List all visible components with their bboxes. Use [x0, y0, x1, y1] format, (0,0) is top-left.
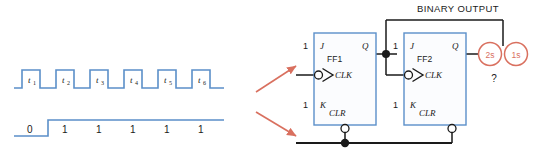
data-waveform-group: 0 1 1 1 1 1 [14, 120, 224, 136]
clock-label-sub-3: 3 [101, 80, 104, 86]
ff1-k-value: 1 [303, 100, 308, 110]
clock-pulse-label-2: t 2 [62, 75, 70, 86]
data-bit-0: 0 [27, 124, 33, 135]
data-bit-1: 1 [62, 124, 68, 135]
clock-pulse-label-4: t 4 [130, 75, 138, 86]
data-bit-3: 1 [130, 124, 136, 135]
ff1-clk-label: CLK [335, 70, 353, 80]
clock-pulse-label-1: t 1 [28, 75, 36, 86]
binary-output-heading: BINARY OUTPUT [417, 3, 499, 14]
ff2-clk-label: CLK [425, 70, 443, 80]
ff1-q-label: Q [362, 41, 369, 51]
clock-label-text-6: t [198, 75, 201, 85]
annotation-arrows [256, 66, 296, 136]
flipflop-ff1[interactable]: 1 J Q FF1 CLK 1 K CLR [303, 33, 376, 133]
clock-label-text-2: t [62, 75, 65, 85]
data-bit-4: 1 [164, 124, 170, 135]
clock-label-sub-4: 4 [135, 80, 138, 86]
clock-waveform-group: t 1 t 2 t 3 t 4 t 5 t 6 [14, 70, 224, 88]
ff2-k-value: 1 [393, 100, 398, 110]
ff1-k-label: K [319, 100, 327, 110]
ff1-name: FF1 [327, 54, 342, 64]
clock-pulse-label-6: t 6 [198, 75, 206, 86]
output-weight-twos[interactable]: 2s [479, 43, 502, 66]
ff1-j-value: 1 [303, 41, 308, 51]
ff1-clr-bubble [341, 125, 349, 133]
clock-label-text-5: t [164, 75, 167, 85]
data-bit-5: 1 [198, 124, 204, 135]
unknown-marker: ? [491, 73, 497, 84]
data-waveform-path [14, 120, 224, 136]
circuit-diagram-canvas: t 1 t 2 t 3 t 4 t 5 t 6 [0, 0, 535, 159]
twos-label: 2s [486, 50, 495, 60]
clock-label-sub-1: 1 [33, 80, 36, 86]
clock-pulse-label-5: t 5 [164, 75, 172, 86]
ff2-clr-label: CLR [419, 108, 436, 118]
clock-pulse-label-3: t 3 [96, 75, 104, 86]
ff2-j-value: 1 [393, 41, 398, 51]
clock-label-text-4: t [130, 75, 133, 85]
clock-label-sub-6: 6 [203, 80, 206, 86]
ff1-clk-bubble [315, 71, 323, 79]
arrow-to-clr-line [256, 112, 296, 136]
clock-label-sub-5: 5 [169, 80, 172, 86]
flipflop-ff2[interactable]: 1 J Q FF2 CLK 1 K CLR [393, 33, 466, 133]
ff2-q-label: Q [452, 41, 459, 51]
clock-label-text-1: t [28, 75, 31, 85]
ff2-clr-bubble [448, 125, 456, 133]
ff2-k-label: K [409, 100, 417, 110]
ff1-clr-label: CLR [329, 108, 346, 118]
ff2-clk-bubble [405, 71, 413, 79]
ff2-name: FF2 [417, 54, 432, 64]
output-weight-ones[interactable]: 1s [505, 43, 528, 66]
clock-waveform-path [14, 70, 224, 88]
junction-dot-clr-bus [341, 139, 349, 147]
ones-label: 1s [512, 50, 521, 60]
data-bit-2: 1 [96, 124, 102, 135]
diagram-svg: t 1 t 2 t 3 t 4 t 5 t 6 [0, 0, 535, 159]
clock-label-sub-2: 2 [67, 80, 70, 86]
arrow-to-clk-input [256, 66, 296, 92]
clock-label-text-3: t [96, 75, 99, 85]
junction-dot-ff1-q [382, 50, 390, 58]
